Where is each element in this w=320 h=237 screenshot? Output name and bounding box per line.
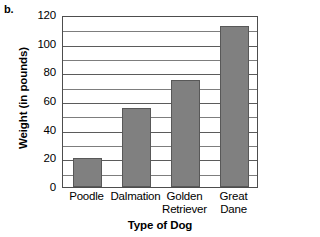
y-tick-label: 20 — [44, 153, 56, 165]
x-tick-label-line: Dane — [198, 203, 269, 216]
x-tick-label: GreatDane — [198, 190, 269, 215]
plot-area — [62, 16, 258, 188]
y-tick-label: 40 — [44, 125, 56, 137]
y-tick-label: 80 — [44, 67, 56, 79]
bar — [122, 108, 151, 187]
x-axis-tick-labels: PoodleDalmationGoldenRetrieverGreatDane — [62, 190, 258, 220]
bar — [73, 158, 102, 187]
bar — [171, 80, 200, 188]
y-tick-label: 60 — [44, 96, 56, 108]
x-tick-label-line: Golden — [167, 190, 203, 202]
y-tick-label: 120 — [37, 10, 56, 22]
x-axis-title: Type of Dog — [62, 219, 258, 231]
bar — [220, 26, 249, 187]
x-tick-label-line: Great — [220, 190, 248, 202]
bar-series — [63, 17, 257, 187]
x-tick-label-line: Poodle — [69, 190, 104, 202]
y-tick-label: 100 — [37, 39, 56, 51]
